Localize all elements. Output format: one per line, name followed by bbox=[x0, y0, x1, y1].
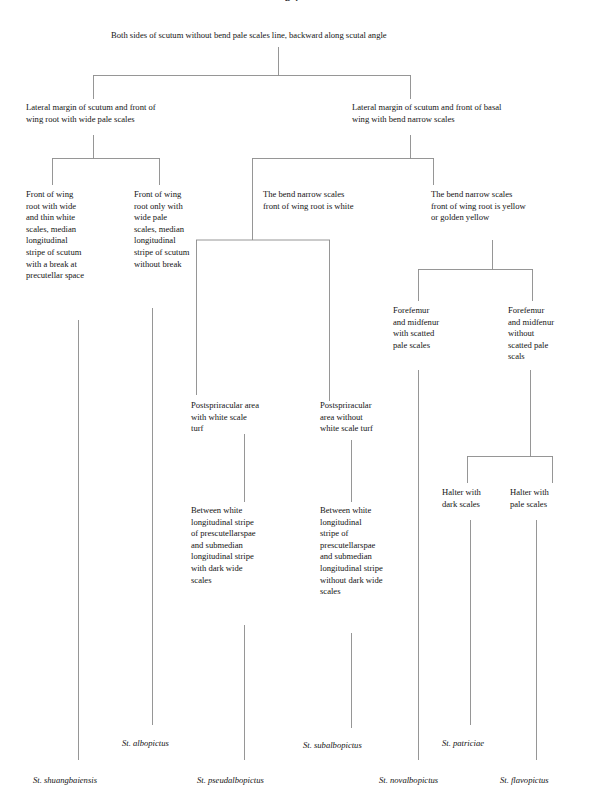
node-front-wing-root-only-wide: Front of wing root only with wide pale s… bbox=[134, 189, 208, 270]
node-level1-right: Lateral margin of scutum and front of ba… bbox=[352, 102, 582, 125]
node-postspiracular-with-turf: Postspriracular area with white scale tu… bbox=[191, 400, 291, 435]
species-novalbopictus: St. novalbopictus bbox=[379, 775, 438, 787]
node-halter-dark-scales: Halter with dark scales bbox=[442, 487, 504, 510]
node-root: Both sides of scutum without bend pale s… bbox=[111, 30, 511, 42]
species-subalbopictus: St. subalbopictus bbox=[303, 740, 362, 752]
species-pseudalbopictus: St. pseudalbopictus bbox=[197, 775, 264, 787]
node-level1-left: Lateral margin of scutum and front of wi… bbox=[26, 102, 236, 125]
species-patriciae: St. patriciae bbox=[442, 738, 484, 750]
node-between-without-dark-wide: Between white longitudinal stripe of pre… bbox=[320, 505, 418, 598]
node-between-with-dark-wide: Between white longitudinal stripe of pre… bbox=[191, 505, 291, 586]
node-bend-narrow-yellow: The bend narrow scales front of wing roo… bbox=[431, 189, 576, 224]
species-albopictus: St. albopictus bbox=[122, 738, 169, 750]
node-postspiracular-without-turf: Postspriracular area without white scale… bbox=[320, 400, 410, 435]
node-forefemur-without-scatted: Forefemur and midfenur without scatted p… bbox=[508, 305, 574, 363]
node-forefemur-with-scatted: Forefemur and midfenur with scatted pale… bbox=[393, 305, 459, 351]
node-bend-narrow-white: The bend narrow scales front of wing roo… bbox=[263, 189, 388, 212]
species-flavopictus: St. flavopictus bbox=[500, 775, 549, 787]
node-front-wing-root-wide-thin: Front of wing root with wide and thin wh… bbox=[26, 189, 100, 282]
dichotomous-key-diagram: p 2 bbox=[0, 0, 595, 801]
page-title-fragment: p 2 bbox=[285, 0, 298, 1]
species-shuangbaiensis: St. shuangbaiensis bbox=[33, 775, 97, 787]
node-halter-pale-scales: Halter with pale scales bbox=[510, 487, 572, 510]
